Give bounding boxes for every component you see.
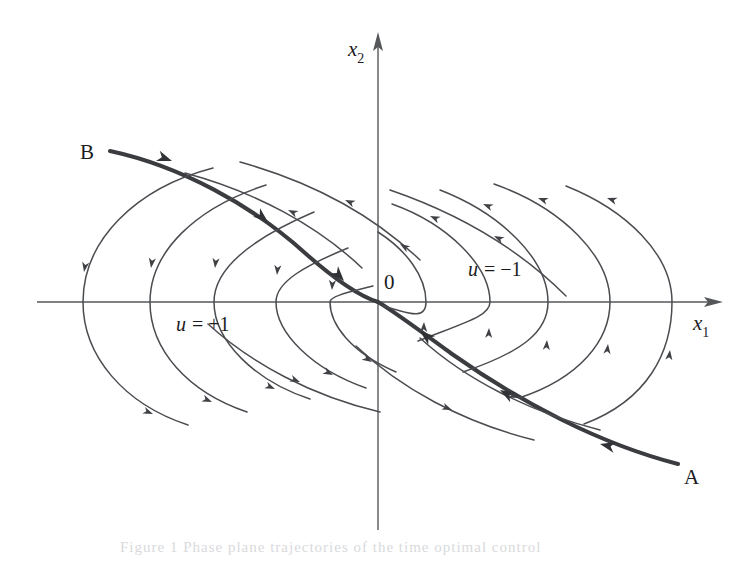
flow-arrow-u-minus-1-arc-3-0 [543,340,551,350]
axes-group [37,32,723,530]
flow-arrow-u-minus-1-arc-4-0 [603,344,611,355]
control-label-u-minus-1: u= −1 [468,258,522,280]
trajectory-u-plus-1-arc-1 [83,168,213,425]
flow-arrow-u-minus-1-arc-4-1 [537,195,549,205]
trajectory-u-minus-1-outer-upper-2 [240,162,420,260]
axis-labels-group: x2 x1 0 [347,37,709,340]
trajectory-u-minus-1-arc-4 [494,184,610,398]
control-label-u-plus-1: u= +1 [176,313,230,335]
origin-label: 0 [384,270,395,294]
flow-arrow-u-minus-1-arc-2-0 [485,328,493,338]
figure-root: x2 x1 0 u= +1 u= −1 B A Figure 1 Phase p… [0,0,750,580]
flow-arrow-u-minus-1-outer-upper-2-0 [344,197,356,208]
flow-arrow-u-minus-1-outer-upper-1-0 [286,207,298,218]
trajectory-u-plus-1-outer-lower-3 [208,324,380,412]
flow-arrow-u-plus-1-outer-lower-2-0 [441,403,453,413]
x1-axis-label: x1 [692,311,709,340]
trajectory-group [83,151,678,464]
annotation-labels-group: u= +1 u= −1 B A [80,140,700,489]
flow-arrow-u-minus-1-arc-1-0 [420,322,428,332]
point-label-a: A [684,465,700,489]
x2-axis-label: x2 [347,37,364,66]
trajectory-u-minus-1-arc-5 [566,186,672,424]
page-bleed-through-text: Figure 1 Phase plane trajectories of the… [120,539,541,555]
flow-arrow-u-plus-1-arc-2-0 [147,258,156,269]
phase-portrait-diagram: x2 x1 0 u= +1 u= −1 B A Figure 1 Phase p… [0,0,750,580]
flow-arrow-u-minus-1-arc-5-0 [665,350,673,361]
trajectory-switching-curve-B-branch [110,151,378,302]
point-label-b: B [80,140,94,164]
flow-arrow-u-plus-1-arc-3-0 [211,258,219,269]
trajectory-u-plus-1-arc-5 [330,286,396,372]
flow-arrow-u-plus-1-arc-5-0 [328,280,336,290]
flow-arrow-u-plus-1-arc-1-1 [142,407,154,417]
flow-arrow-u-plus-1-arc-4-0 [273,265,281,276]
flow-arrow-u-minus-1-arc-5-1 [606,195,618,205]
trajectory-u-plus-1-arc-3 [214,212,314,399]
trajectory-u-plus-1-arc-2 [150,185,266,412]
flow-arrow-u-minus-1-arc-3-1 [482,201,494,211]
